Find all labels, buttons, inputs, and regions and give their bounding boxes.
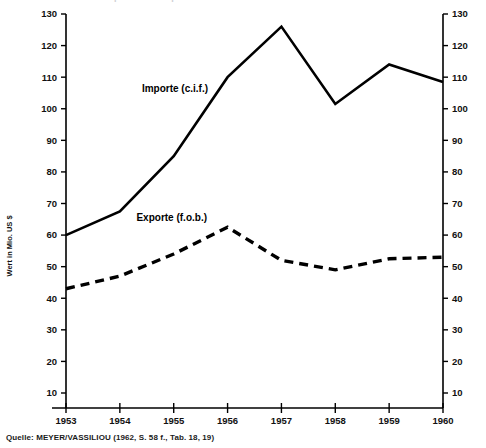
series-line-exporte xyxy=(66,227,443,289)
y-tick-label-left: 70 xyxy=(46,198,57,209)
plot-area: 1010202030304040505060607070808090901001… xyxy=(0,0,486,448)
y-tick-label-left: 130 xyxy=(41,8,57,19)
y-tick-label-left: 20 xyxy=(46,356,57,367)
y-tick-label-left: 120 xyxy=(41,40,57,51)
y-tick-label-left: 50 xyxy=(46,261,57,272)
y-tick-label-right: 80 xyxy=(452,166,463,177)
y-tick-label-right: 110 xyxy=(452,72,467,83)
y-tick-label-right: 50 xyxy=(452,261,463,272)
y-tick-label-right: 70 xyxy=(452,198,463,209)
y-tick-label-left: 110 xyxy=(42,72,57,83)
y-tick-label-left: 100 xyxy=(41,103,57,114)
x-tick-label: 1955 xyxy=(163,415,185,426)
series-label-importe: Importe (c.i.f.) xyxy=(142,83,208,94)
x-tick-label: 1953 xyxy=(55,415,76,426)
y-tick-label-right: 120 xyxy=(452,40,468,51)
x-tick-label: 1957 xyxy=(271,415,292,426)
series-line-importe xyxy=(66,27,443,235)
y-tick-label-left: 90 xyxy=(46,135,57,146)
source-note: Quelle: MEYER/VASSILIOU (1962, S. 58 f.,… xyxy=(6,433,214,442)
x-tick-label: 1954 xyxy=(109,415,131,426)
y-tick-label-right: 40 xyxy=(452,293,463,304)
y-tick-label-left: 80 xyxy=(46,166,57,177)
y-tick-label-left: 40 xyxy=(46,293,57,304)
x-tick-label: 1960 xyxy=(432,415,453,426)
line-chart-svg: 1010202030304040505060607070808090901001… xyxy=(0,0,486,448)
y-tick-label-right: 30 xyxy=(452,324,463,335)
x-tick-label: 1958 xyxy=(325,415,346,426)
y-tick-label-right: 60 xyxy=(452,229,463,240)
chart-figure: Handelsbilanz: Importe und Exporte 10102… xyxy=(0,0,486,448)
x-tick-label: 1956 xyxy=(217,415,238,426)
series-label-exporte: Exporte (f.o.b.) xyxy=(136,212,207,223)
y-tick-label-right: 100 xyxy=(452,103,468,114)
y-tick-label-left: 30 xyxy=(46,324,57,335)
y-tick-label-left: 60 xyxy=(46,229,57,240)
y-tick-label-left: 10 xyxy=(46,387,57,398)
x-tick-label: 1959 xyxy=(379,415,400,426)
y-tick-label-right: 20 xyxy=(452,356,463,367)
y-tick-label-right: 130 xyxy=(452,8,468,19)
y-tick-label-right: 10 xyxy=(452,387,463,398)
y-tick-label-right: 90 xyxy=(452,135,463,146)
y-axis-title: Wert in Mio. US $ xyxy=(5,215,14,277)
